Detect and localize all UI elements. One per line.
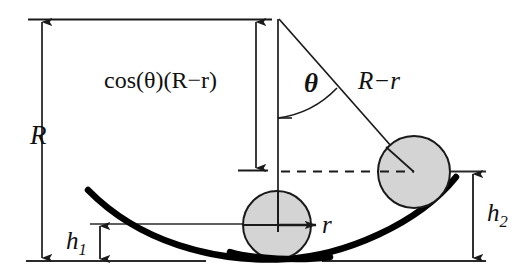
label-theta: θ [304, 70, 318, 97]
label-h2-base: h [487, 199, 500, 226]
label-h1-subscript: 1 [79, 240, 87, 259]
label-h1: h1 [66, 228, 87, 259]
label-R-minus-r: R−r [358, 68, 400, 93]
label-R: R [30, 122, 47, 149]
physics-diagram: R cos(θ)(R−r) θ R−r r h1 h2 [0, 0, 523, 280]
label-h2-subscript: 2 [500, 212, 508, 231]
label-h2: h2 [487, 200, 508, 231]
label-ball-radius-r: r [322, 212, 332, 237]
label-h1-base: h [66, 227, 79, 254]
label-cos-projection: cos(θ)(R−r) [104, 68, 217, 92]
